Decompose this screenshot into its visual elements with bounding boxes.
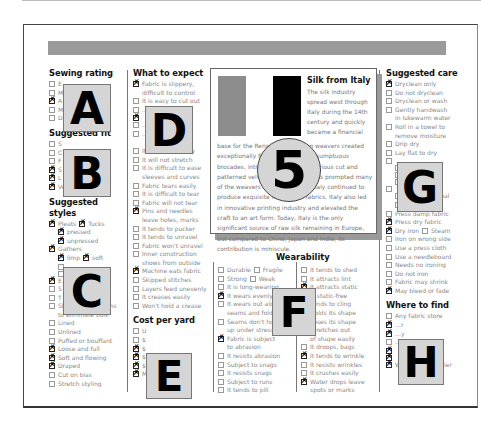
- checklist-item[interactable]: unpressed: [49, 237, 125, 246]
- checkbox[interactable]: [386, 262, 392, 268]
- checklist-item[interactable]: It droops, bags: [301, 343, 379, 352]
- checklist-item[interactable]: Water drops leave: [301, 378, 379, 387]
- checklist-item[interactable]: It will not stretch: [133, 156, 211, 165]
- checkbox[interactable]: [218, 379, 224, 385]
- checklist-item[interactable]: …r: [386, 321, 478, 330]
- checklist-item[interactable]: StrongWeak: [218, 275, 296, 284]
- checkbox[interactable]: [386, 124, 392, 130]
- checklist-item[interactable]: Iron on wrong side: [386, 235, 478, 244]
- checkbox-checked[interactable]: [58, 238, 64, 244]
- checklist-item[interactable]: Gently handwash: [386, 106, 478, 115]
- checkbox[interactable]: [133, 183, 139, 189]
- checkbox[interactable]: [218, 362, 224, 368]
- checkbox[interactable]: [49, 115, 55, 121]
- checkbox-checked[interactable]: [133, 268, 139, 274]
- checklist-item[interactable]: Lined: [49, 319, 125, 328]
- checkbox[interactable]: [49, 107, 55, 113]
- checkbox[interactable]: [49, 81, 55, 87]
- checkbox[interactable]: [386, 107, 392, 113]
- checkbox[interactable]: [386, 271, 392, 277]
- checklist-item[interactable]: It creases easily: [133, 293, 211, 302]
- checklist-item[interactable]: Fabric may shrink: [386, 278, 478, 287]
- checkbox[interactable]: [49, 372, 55, 378]
- checkbox[interactable]: [49, 320, 55, 326]
- checkbox-checked[interactable]: [49, 246, 55, 252]
- checkbox[interactable]: [133, 122, 139, 128]
- checklist-item[interactable]: Machine eats fabric: [133, 267, 211, 276]
- checklist-item[interactable]: May bleed or fade: [386, 287, 478, 296]
- checklist-item[interactable]: Subject to runs: [218, 378, 296, 387]
- checkbox[interactable]: [133, 148, 139, 154]
- checklist-item[interactable]: Pins and needles: [133, 207, 211, 216]
- checkbox[interactable]: [218, 301, 224, 307]
- checkbox[interactable]: [218, 353, 224, 359]
- checkbox[interactable]: [386, 245, 392, 251]
- checklist-item[interactable]: Layers feed unevenly: [133, 285, 211, 294]
- checklist-item[interactable]: Loose and full: [49, 345, 125, 354]
- checkbox[interactable]: [133, 328, 139, 334]
- checklist-item[interactable]: It is difficult to tear: [133, 190, 211, 199]
- checkbox[interactable]: [386, 254, 392, 260]
- checkbox-checked[interactable]: [133, 81, 139, 87]
- checklist-item[interactable]: Dry ironSteam: [386, 227, 478, 236]
- checklist-item[interactable]: Use a press cloth: [386, 244, 478, 253]
- checkbox[interactable]: [386, 90, 392, 96]
- checklist-item[interactable]: Inner construction: [133, 250, 211, 259]
- checkbox-checked[interactable]: [386, 81, 392, 87]
- checklist-item[interactable]: Soft and flowing: [49, 354, 125, 363]
- checkbox[interactable]: [49, 150, 55, 156]
- checklist-item[interactable]: Dryclean or wash: [386, 97, 478, 106]
- checkbox[interactable]: [133, 131, 139, 137]
- checklist-item[interactable]: Dryclean only: [386, 80, 478, 89]
- checkbox-checked[interactable]: [79, 221, 85, 227]
- checklist-item[interactable]: Fabric will not tear: [133, 199, 211, 208]
- checklist-item[interactable]: Any fabric store: [386, 312, 478, 321]
- checkbox-checked[interactable]: [49, 184, 55, 190]
- checkbox[interactable]: [49, 286, 55, 292]
- checkbox-checked[interactable]: [49, 221, 55, 227]
- checkbox[interactable]: [250, 276, 256, 282]
- checklist-item[interactable]: Fabric is slippery,: [133, 80, 211, 89]
- checkbox[interactable]: [386, 236, 392, 242]
- checkbox[interactable]: [49, 329, 55, 335]
- checkbox-checked[interactable]: [133, 115, 139, 121]
- checklist-item[interactable]: Drip dry: [386, 140, 478, 149]
- checkbox[interactable]: [49, 295, 55, 301]
- checkbox[interactable]: [133, 234, 139, 240]
- checklist-item[interactable]: Do not dryclean: [386, 89, 478, 98]
- checklist-item[interactable]: Puffed or bouffant: [49, 337, 125, 346]
- checklist-item[interactable]: Do not iron: [386, 270, 478, 279]
- checkbox[interactable]: [133, 165, 139, 171]
- checkbox[interactable]: [133, 98, 139, 104]
- checkbox-checked[interactable]: [218, 293, 224, 299]
- checkbox[interactable]: [218, 370, 224, 376]
- checkbox[interactable]: [386, 186, 392, 192]
- checkbox[interactable]: [133, 294, 139, 300]
- checklist-item[interactable]: $: [133, 336, 211, 345]
- checkbox[interactable]: [133, 286, 139, 292]
- checklist-item[interactable]: It is difficult to ease: [133, 164, 211, 173]
- checklist-item[interactable]: Unlined: [49, 328, 125, 337]
- checkbox[interactable]: [301, 362, 307, 368]
- checklist-item[interactable]: It tends to unravel: [133, 233, 211, 242]
- checkbox-checked[interactable]: [49, 278, 55, 284]
- checklist-item[interactable]: It tends to pill: [218, 386, 296, 395]
- checkbox[interactable]: [218, 319, 224, 325]
- checkbox[interactable]: [301, 267, 307, 273]
- checkbox[interactable]: [386, 158, 392, 164]
- checklist-item[interactable]: It resists snags: [218, 369, 296, 378]
- checkbox[interactable]: [49, 141, 55, 147]
- checklist-item[interactable]: limpsoft: [49, 254, 125, 263]
- checkbox[interactable]: [254, 267, 260, 273]
- checkbox[interactable]: [422, 228, 428, 234]
- checkbox[interactable]: [386, 141, 392, 147]
- checklist-item[interactable]: Lay flat to dry: [386, 149, 478, 158]
- checkbox[interactable]: [133, 277, 139, 283]
- checkbox[interactable]: [133, 191, 139, 197]
- checklist-item[interactable]: Draped: [49, 362, 125, 371]
- checkbox-checked[interactable]: [301, 353, 307, 359]
- checkbox[interactable]: [133, 243, 139, 249]
- checklist-item[interactable]: It tends to wrinkle: [301, 352, 379, 361]
- checkbox[interactable]: [49, 381, 55, 387]
- checkbox-checked[interactable]: [218, 336, 224, 342]
